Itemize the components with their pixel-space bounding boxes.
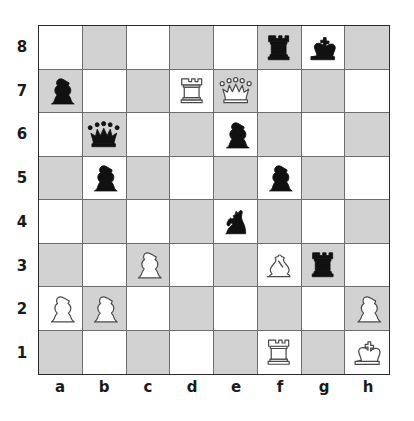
square-h6[interactable] (345, 113, 389, 157)
square-h4[interactable] (345, 200, 389, 244)
file-label-h: h (346, 378, 390, 404)
square-f5[interactable] (258, 157, 302, 201)
square-e7[interactable] (214, 70, 258, 114)
square-e2[interactable] (214, 287, 258, 331)
square-g1[interactable] (302, 331, 346, 375)
white-queen-icon[interactable] (214, 70, 257, 113)
square-f4[interactable] (258, 200, 302, 244)
square-a4[interactable] (39, 200, 83, 244)
square-c4[interactable] (127, 200, 171, 244)
square-f8[interactable] (258, 26, 302, 70)
square-h2[interactable] (345, 287, 389, 331)
square-c3[interactable] (127, 244, 171, 288)
square-d1[interactable] (170, 331, 214, 375)
square-h1[interactable] (345, 331, 389, 375)
square-a3[interactable] (39, 244, 83, 288)
file-label-d: d (170, 378, 214, 404)
square-g6[interactable] (302, 113, 346, 157)
square-e4[interactable] (214, 200, 258, 244)
file-label-a: a (38, 378, 82, 404)
file-labels: abcdefgh (38, 378, 390, 404)
square-a5[interactable] (39, 157, 83, 201)
square-e3[interactable] (214, 244, 258, 288)
rank-label-4: 4 (10, 200, 34, 244)
black-rook-icon[interactable] (258, 26, 301, 69)
square-g7[interactable] (302, 70, 346, 114)
square-e5[interactable] (214, 157, 258, 201)
square-b6[interactable] (83, 113, 127, 157)
square-c7[interactable] (127, 70, 171, 114)
square-e1[interactable] (214, 331, 258, 375)
white-pawn-icon[interactable] (39, 287, 82, 330)
white-bishop-icon[interactable] (258, 244, 301, 287)
square-d8[interactable] (170, 26, 214, 70)
rank-label-7: 7 (10, 69, 34, 113)
square-b1[interactable] (83, 331, 127, 375)
square-b2[interactable] (83, 287, 127, 331)
black-pawn-icon[interactable] (39, 70, 82, 113)
square-f6[interactable] (258, 113, 302, 157)
square-d5[interactable] (170, 157, 214, 201)
square-d6[interactable] (170, 113, 214, 157)
square-g8[interactable] (302, 26, 346, 70)
square-f2[interactable] (258, 287, 302, 331)
file-label-b: b (82, 378, 126, 404)
white-pawn-icon[interactable] (83, 287, 126, 330)
square-h8[interactable] (345, 26, 389, 70)
chess-board[interactable] (38, 25, 390, 375)
square-a6[interactable] (39, 113, 83, 157)
square-f3[interactable] (258, 244, 302, 288)
black-rook-icon[interactable] (302, 244, 345, 287)
square-b5[interactable] (83, 157, 127, 201)
chess-board-wrapper (38, 25, 390, 375)
square-g4[interactable] (302, 200, 346, 244)
rank-label-6: 6 (10, 113, 34, 157)
square-f1[interactable] (258, 331, 302, 375)
chess-diagram: 87654321 abcdefgh (0, 0, 414, 421)
rank-labels: 87654321 (10, 25, 34, 375)
white-rook-icon[interactable] (258, 331, 301, 375)
black-king-icon[interactable] (302, 26, 345, 69)
square-c8[interactable] (127, 26, 171, 70)
square-a7[interactable] (39, 70, 83, 114)
square-a1[interactable] (39, 331, 83, 375)
white-pawn-icon[interactable] (127, 244, 170, 287)
square-e8[interactable] (214, 26, 258, 70)
square-h3[interactable] (345, 244, 389, 288)
file-label-e: e (214, 378, 258, 404)
square-h7[interactable] (345, 70, 389, 114)
black-pawn-icon[interactable] (83, 157, 126, 200)
rank-label-2: 2 (10, 288, 34, 332)
rank-label-8: 8 (10, 25, 34, 69)
black-pawn-icon[interactable] (214, 113, 257, 156)
square-d3[interactable] (170, 244, 214, 288)
square-b7[interactable] (83, 70, 127, 114)
black-queen-icon[interactable] (83, 113, 126, 156)
black-knight-icon[interactable] (214, 200, 257, 243)
white-rook-icon[interactable] (170, 70, 213, 113)
rank-label-3: 3 (10, 244, 34, 288)
square-f7[interactable] (258, 70, 302, 114)
square-c5[interactable] (127, 157, 171, 201)
square-g5[interactable] (302, 157, 346, 201)
white-king-icon[interactable] (345, 331, 389, 375)
square-h5[interactable] (345, 157, 389, 201)
square-g2[interactable] (302, 287, 346, 331)
square-c1[interactable] (127, 331, 171, 375)
file-label-c: c (126, 378, 170, 404)
square-d7[interactable] (170, 70, 214, 114)
square-e6[interactable] (214, 113, 258, 157)
square-b4[interactable] (83, 200, 127, 244)
file-label-f: f (258, 378, 302, 404)
square-b8[interactable] (83, 26, 127, 70)
black-pawn-icon[interactable] (258, 157, 301, 200)
white-pawn-icon[interactable] (345, 287, 389, 330)
square-d2[interactable] (170, 287, 214, 331)
square-a8[interactable] (39, 26, 83, 70)
square-g3[interactable] (302, 244, 346, 288)
square-b3[interactable] (83, 244, 127, 288)
square-a2[interactable] (39, 287, 83, 331)
square-c2[interactable] (127, 287, 171, 331)
square-d4[interactable] (170, 200, 214, 244)
square-c6[interactable] (127, 113, 171, 157)
